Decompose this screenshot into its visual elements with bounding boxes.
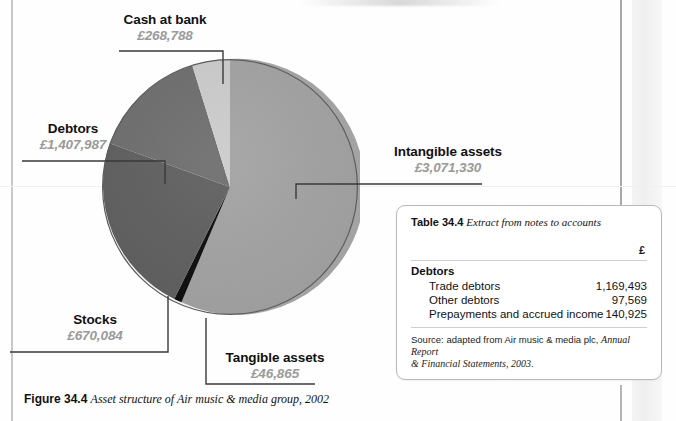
table-header-divider [411, 260, 647, 261]
figure-caption: Figure 34.4 Asset structure of Air music… [24, 392, 329, 407]
table-title-text: Extract from notes to accounts [466, 216, 601, 228]
table-title-prefix: Table 34.4 [411, 216, 463, 228]
page-rule-left [11, 0, 13, 421]
table-row-amount: 1,169,493 [596, 280, 647, 292]
pie-chart [100, 58, 360, 316]
callout-tangible-assets-name: Tangible assets [200, 350, 350, 366]
table-source-italic-2: & Financial Statements, 2003 [411, 358, 531, 369]
table-34-4-box: Table 34.4 Extract from notes to account… [396, 205, 662, 380]
callout-cash-at-bank: Cash at bank £268,788 [95, 12, 235, 44]
callout-intangible-assets-value: £3,071,330 [373, 160, 523, 176]
table-row-label: Other debtors [411, 294, 499, 306]
callout-cash-at-bank-name: Cash at bank [95, 12, 235, 28]
scan-artifact-top [300, 0, 500, 6]
table-currency-header: £ [411, 230, 647, 258]
callout-stocks-value: £670,084 [30, 328, 160, 344]
callout-cash-at-bank-value: £268,788 [95, 28, 235, 44]
figure-caption-text: Asset structure of Air music & media gro… [91, 392, 330, 406]
table-row-amount: 97,569 [612, 294, 647, 306]
table-source-period: . [531, 358, 534, 369]
callout-stocks: Stocks £670,084 [30, 312, 160, 344]
pie-chart-svg [100, 58, 360, 316]
table-source-text: Source: adapted from Air music & media p… [411, 334, 598, 345]
callout-debtors-name: Debtors [8, 121, 138, 137]
page-rule-right-top [620, 0, 622, 210]
table-row-label: Prepayments and accrued income [411, 308, 604, 320]
table-row-amount: 140,925 [605, 308, 647, 320]
table-row: Prepayments and accrued income 140,925 [411, 308, 647, 320]
scanned-page: Cash at bank £268,788 Debtors £1,407,987… [0, 0, 676, 421]
table-row-label: Trade debtors [411, 280, 500, 292]
table-title: Table 34.4 Extract from notes to account… [411, 216, 647, 228]
table-source-note: Source: adapted from Air music & media p… [411, 334, 647, 370]
page-rule-right-bottom [620, 385, 622, 421]
table-row: Trade debtors 1,169,493 [411, 280, 647, 292]
figure-caption-prefix: Figure 34.4 [24, 392, 87, 406]
callout-debtors-value: £1,407,987 [8, 137, 138, 153]
table-group-header: Debtors [411, 265, 647, 277]
table-row: Other debtors 97,569 [411, 294, 647, 306]
callout-debtors: Debtors £1,407,987 [8, 121, 138, 153]
callout-intangible-assets-name: Intangible assets [373, 144, 523, 160]
callout-tangible-assets: Tangible assets £46,865 [200, 350, 350, 382]
callout-intangible-assets: Intangible assets £3,071,330 [373, 144, 523, 176]
callout-stocks-name: Stocks [30, 312, 160, 328]
table-footer-divider [411, 327, 647, 328]
callout-tangible-assets-value: £46,865 [200, 366, 350, 382]
